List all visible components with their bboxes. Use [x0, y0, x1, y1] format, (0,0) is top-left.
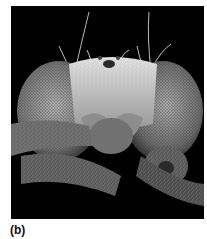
- figure-label: (b): [10, 224, 25, 236]
- sem-micrograph-fly-head: [11, 6, 204, 219]
- fly-head-illustration: [11, 6, 204, 219]
